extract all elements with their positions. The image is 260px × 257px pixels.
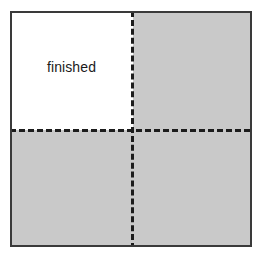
quadrant-bottom-right — [133, 130, 250, 245]
divider-horizontal-dashed — [10, 129, 250, 132]
square-frame: finished — [10, 11, 252, 247]
quadrant-bottom-left — [12, 130, 133, 245]
figure-root: finished — [0, 0, 260, 257]
quadrant-top-left-label: finished — [12, 59, 131, 75]
quadrant-top-right — [133, 13, 250, 130]
